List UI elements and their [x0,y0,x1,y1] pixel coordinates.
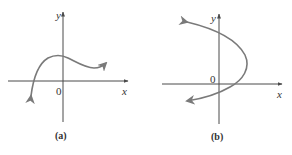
parabola-curve [187,22,247,101]
caption-a: (a) [55,130,67,142]
plot-a: y 0 x (a) [8,9,128,142]
x-axis-label: x [121,85,127,97]
origin-label: 0 [56,85,62,97]
origin-label: 0 [210,73,216,85]
y-axis-label: y [55,9,61,21]
figure-canvas: y 0 x (a) y 0 x (b) [0,0,292,155]
y-axis-label: y [210,12,216,24]
cubic-curve [31,55,106,96]
plot-b: y 0 x (b) [162,12,282,143]
x-axis-label: x [276,88,282,100]
caption-b: (b) [211,131,223,143]
